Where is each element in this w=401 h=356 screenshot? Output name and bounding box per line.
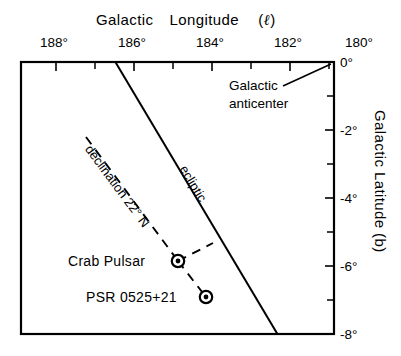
object-label-crab-pulsar: Crab Pulsar bbox=[68, 254, 145, 268]
galactic-coordinate-chart: Galactic Longitude (ℓ) 188° 186° 184° 18… bbox=[0, 0, 401, 356]
anticenter-label-line1: Galactic bbox=[229, 79, 278, 93]
x-axis-major-ticks bbox=[56, 62, 334, 71]
marker-crab-pulsar bbox=[172, 255, 184, 267]
anticenter-label-line2: anticenter bbox=[229, 97, 288, 111]
object-label-psr-0525-21: PSR 0525+21 bbox=[86, 290, 177, 304]
marker-psr-0525-21 bbox=[200, 291, 212, 303]
y-axis-major-ticks bbox=[325, 62, 334, 334]
plot-canvas bbox=[0, 0, 401, 356]
